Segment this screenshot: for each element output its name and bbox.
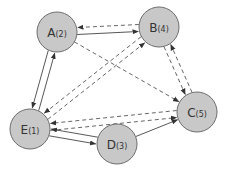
edge-a-to-c	[74, 42, 178, 102]
node-letter: C	[187, 106, 195, 120]
edge-a-to-e	[32, 50, 48, 108]
graph-diagram: A(2)B(4)C(5)D(3)E(1)	[0, 0, 226, 177]
node-e: E(1)	[10, 109, 50, 149]
edge-e-to-d	[49, 136, 96, 144]
node-rank: (2)	[55, 30, 66, 39]
node-rank: (5)	[196, 110, 207, 119]
node-rank: (4)	[157, 25, 168, 34]
nodes-layer: A(2)B(4)C(5)D(3)E(1)	[10, 7, 217, 164]
edge-d-to-e	[51, 129, 98, 137]
edge-b-to-a	[78, 25, 139, 28]
edge-c-to-e	[51, 111, 177, 124]
node-d: D(3)	[97, 124, 137, 164]
node-letter: D	[107, 138, 116, 152]
node-letter: B	[149, 21, 157, 35]
node-rank: (3)	[116, 142, 127, 151]
node-rank: (1)	[28, 127, 39, 136]
node-c: C(5)	[177, 92, 217, 132]
edge-e-to-b	[48, 43, 145, 120]
edge-d-to-c	[136, 120, 178, 137]
node-b: B(4)	[139, 7, 179, 47]
edge-a-to-b	[77, 32, 138, 35]
node-a: A(2)	[37, 12, 77, 52]
node-letter: E	[21, 123, 29, 137]
edge-e-to-a	[39, 53, 55, 110]
